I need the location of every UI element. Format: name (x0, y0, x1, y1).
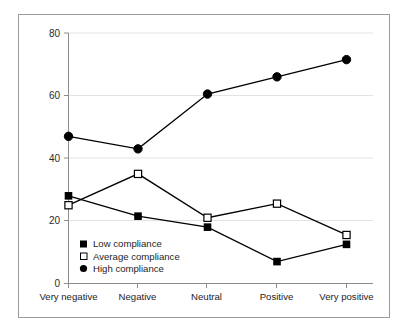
ytick-label-40: 40 (49, 153, 61, 164)
xtick-label-negative: Negative (119, 291, 157, 302)
xtick-label-very-positive: Very positive (319, 291, 373, 302)
legend-label-high-compliance: High compliance (93, 263, 164, 274)
ytick-label-0: 0 (54, 278, 60, 289)
legend-marker-average-compliance (81, 253, 88, 260)
data-point (64, 132, 72, 140)
series-layer (64, 55, 350, 265)
data-point (65, 192, 73, 200)
data-point (65, 202, 72, 209)
data-point (273, 258, 281, 266)
data-point (273, 73, 281, 81)
xtick-label-positive: Positive (260, 291, 294, 302)
xtick-label-very-negative: Very negative (39, 291, 97, 302)
data-point (134, 145, 142, 153)
legend-label-average-compliance: Average compliance (93, 251, 180, 262)
y-tick-labels: 80 60 40 20 0 (49, 28, 61, 290)
gridlines (68, 33, 373, 221)
xtick-label-neutral: Neutral (191, 291, 222, 302)
data-point (204, 214, 211, 221)
data-point (343, 241, 351, 249)
data-point (134, 212, 142, 220)
x-tick-labels: Very negative Negative Neutral Positive … (39, 291, 373, 302)
ytick-label-60: 60 (49, 90, 61, 101)
data-point (203, 90, 211, 98)
ytick-label-20: 20 (49, 215, 61, 226)
data-point (273, 200, 280, 207)
series-high-compliance (64, 55, 350, 153)
data-point (134, 170, 141, 177)
legend-marker-low-compliance (80, 241, 87, 248)
series-line (69, 60, 347, 149)
data-point (342, 55, 350, 63)
legend-marker-high-compliance (80, 265, 87, 272)
line-chart: 80 60 40 20 0 Very negative Negative Neu… (0, 0, 408, 333)
ytick-label-80: 80 (49, 28, 61, 39)
data-point (343, 231, 350, 238)
legend: Low compliance Average compliance High c… (80, 238, 180, 274)
legend-label-low-compliance: Low compliance (93, 238, 162, 249)
chart-figure: 80 60 40 20 0 Very negative Negative Neu… (0, 0, 408, 333)
data-point (204, 223, 212, 231)
